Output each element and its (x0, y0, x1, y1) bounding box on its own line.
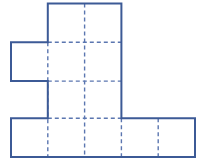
net-diagram (0, 0, 199, 167)
net-figure-canvas (0, 0, 199, 167)
fold-lines-group (48, 4, 158, 158)
net-outline-path (11, 4, 195, 158)
